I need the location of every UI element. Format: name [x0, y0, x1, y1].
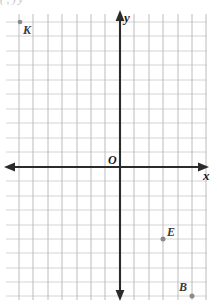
point-label-e: E: [167, 226, 175, 238]
plotted-points: [18, 20, 195, 299]
point-label-k: K: [23, 24, 31, 36]
horizontal-grid-lines: [6, 22, 207, 296]
x-axis-label: x: [203, 169, 210, 182]
point-e-marker: [161, 237, 166, 242]
point-label-b: B: [179, 281, 187, 293]
point-b-marker: [190, 294, 195, 299]
x-axis-left-arrowhead: [4, 163, 15, 172]
y-axis-label: y: [124, 11, 130, 24]
coordinate-plane-figure: ( , ) y: [0, 0, 217, 308]
point-k-marker: [18, 20, 23, 25]
origin-label: O: [108, 154, 117, 166]
y-axis-bottom-arrowhead: [116, 290, 125, 301]
